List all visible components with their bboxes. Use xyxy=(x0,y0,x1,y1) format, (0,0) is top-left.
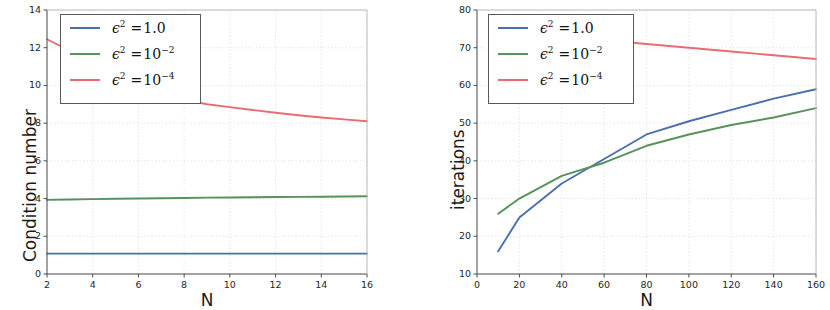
x-tick-label: 2 xyxy=(27,279,67,290)
legend-value-series-3-exponent: −4 xyxy=(161,71,174,81)
y-tick-label: 8 xyxy=(7,117,41,128)
y-tick-label: 30 xyxy=(437,193,471,204)
epsilon-symbol: ϵ xyxy=(112,46,120,62)
legend-item-series-2: ϵ2=10−2 xyxy=(489,41,633,67)
legend-value-series-3-base: 10 xyxy=(571,72,589,88)
legend-label-series-3: ϵ2=10−4 xyxy=(112,72,174,88)
legend-value-series-2-exponent: −2 xyxy=(589,45,602,55)
epsilon-exponent: 2 xyxy=(120,71,126,81)
x-tick-label: 80 xyxy=(627,279,667,290)
epsilon-exponent: 2 xyxy=(548,19,554,29)
x-tick-label: 4 xyxy=(73,279,113,290)
x-tick-label: 60 xyxy=(584,279,624,290)
legend-swatch-series-3 xyxy=(70,79,100,81)
epsilon-symbol: ϵ xyxy=(112,72,120,88)
legend-label-series-1: ϵ2=1.0 xyxy=(540,20,594,36)
legend-item-series-1: ϵ2=1.0 xyxy=(61,15,200,41)
legend-swatch-series-2 xyxy=(498,53,528,55)
x-axis-label-left: N xyxy=(47,290,367,310)
epsilon-symbol: ϵ xyxy=(540,20,548,36)
iterations-plot: N iterations ϵ2=1.0 ϵ2=10−2 ϵ2=10−4 xyxy=(420,0,823,310)
legend-swatch-series-2 xyxy=(70,53,100,55)
x-tick-label: 0 xyxy=(457,279,497,290)
legend-value-series-1: 1.0 xyxy=(143,20,165,36)
x-tick-label: 12 xyxy=(256,279,296,290)
equals-sign: = xyxy=(131,46,143,62)
epsilon-exponent: 2 xyxy=(548,45,554,55)
legend-left: ϵ2=1.0 ϵ2=10−2 ϵ2=10−4 xyxy=(60,14,201,104)
x-tick-label: 20 xyxy=(499,279,539,290)
legend-label-series-2: ϵ2=10−2 xyxy=(112,46,174,62)
epsilon-symbol: ϵ xyxy=(540,46,548,62)
x-tick-label: 8 xyxy=(164,279,204,290)
legend-value-series-3-exponent: −4 xyxy=(589,71,602,81)
legend-label-series-1: ϵ2=1.0 xyxy=(112,20,166,36)
y-tick-label: 0 xyxy=(7,268,41,279)
y-tick-label: 70 xyxy=(437,42,471,53)
legend-swatch-series-1 xyxy=(498,27,528,29)
epsilon-exponent: 2 xyxy=(120,45,126,55)
epsilon-symbol: ϵ xyxy=(112,20,120,36)
legend-value-series-2-exponent: −2 xyxy=(161,45,174,55)
y-tick-label: 4 xyxy=(7,193,41,204)
legend-value-series-3-base: 10 xyxy=(143,72,161,88)
y-tick-label: 6 xyxy=(7,155,41,166)
x-tick-label: 160 xyxy=(796,279,830,290)
legend-right: ϵ2=1.0 ϵ2=10−2 ϵ2=10−4 xyxy=(488,14,634,104)
epsilon-exponent: 2 xyxy=(120,19,126,29)
x-tick-label: 6 xyxy=(118,279,158,290)
equals-sign: = xyxy=(559,72,571,88)
y-tick-label: 12 xyxy=(7,42,41,53)
y-tick-label: 20 xyxy=(437,230,471,241)
y-tick-label: 80 xyxy=(437,4,471,15)
y-tick-label: 50 xyxy=(437,117,471,128)
equals-sign: = xyxy=(131,72,143,88)
legend-item-series-3: ϵ2=10−4 xyxy=(61,67,200,93)
legend-swatch-series-3 xyxy=(498,79,528,81)
x-tick-label: 100 xyxy=(669,279,709,290)
y-tick-label: 60 xyxy=(437,79,471,90)
legend-value-series-2-base: 10 xyxy=(143,46,161,62)
legend-label-series-2: ϵ2=10−2 xyxy=(540,46,602,62)
equals-sign: = xyxy=(559,20,571,36)
epsilon-symbol: ϵ xyxy=(540,72,548,88)
legend-label-series-3: ϵ2=10−4 xyxy=(540,72,602,88)
x-tick-label: 40 xyxy=(542,279,582,290)
legend-value-series-1: 1.0 xyxy=(571,20,593,36)
x-tick-label: 14 xyxy=(301,279,341,290)
x-tick-label: 140 xyxy=(754,279,794,290)
y-tick-label: 10 xyxy=(437,268,471,279)
epsilon-exponent: 2 xyxy=(548,71,554,81)
x-axis-label-right: N xyxy=(477,290,816,310)
y-tick-label: 10 xyxy=(7,79,41,90)
legend-item-series-3: ϵ2=10−4 xyxy=(489,67,633,93)
equals-sign: = xyxy=(559,46,571,62)
y-tick-label: 40 xyxy=(437,155,471,166)
legend-value-series-2-base: 10 xyxy=(571,46,589,62)
legend-item-series-1: ϵ2=1.0 xyxy=(489,15,633,41)
equals-sign: = xyxy=(131,20,143,36)
condition-number-plot: N Condition number ϵ2=1.0 ϵ2=10−2 ϵ2=10−… xyxy=(0,0,420,310)
y-tick-label: 14 xyxy=(7,4,41,15)
x-tick-label: 16 xyxy=(347,279,387,290)
legend-item-series-2: ϵ2=10−2 xyxy=(61,41,200,67)
x-tick-label: 120 xyxy=(711,279,751,290)
legend-swatch-series-1 xyxy=(70,27,100,29)
x-tick-label: 10 xyxy=(210,279,250,290)
y-tick-label: 2 xyxy=(7,230,41,241)
